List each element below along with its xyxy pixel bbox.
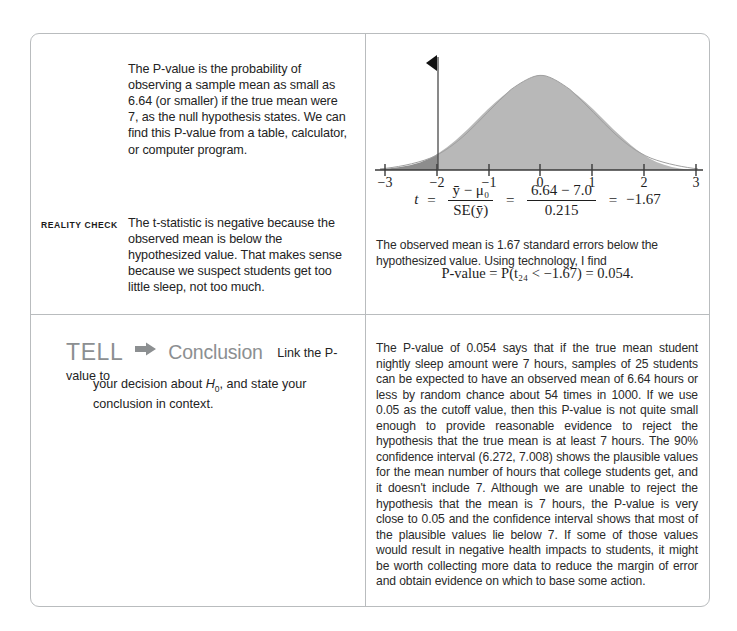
tell-work-column: The P-value of 0.054 says that if the tr… xyxy=(366,315,709,607)
show-narration-column: The P-value is the probability of observ… xyxy=(31,34,365,314)
formula-equals-2: = xyxy=(506,192,514,208)
t-distribution-chart: −3 −2 −1 0 1 2 3 xyxy=(370,42,708,187)
left-triangle-marker-icon xyxy=(426,55,437,71)
tell-lead-in-text: your decision about H0, and state your c… xyxy=(93,376,333,413)
formula-result: −1.67 xyxy=(626,191,661,207)
reality-check-narration-text: The t-statistic is negative because the … xyxy=(128,215,350,296)
formula-denominator-1: SE(ȳ) xyxy=(448,201,493,219)
formula-denominator-2: 0.215 xyxy=(527,201,596,219)
tell-step-label: TELL xyxy=(66,339,123,365)
right-arrow-icon xyxy=(135,342,157,360)
tell-narration-column: TELL Conclusion Link the P-value to your… xyxy=(31,315,365,607)
tell-heading: Conclusion xyxy=(168,341,262,363)
show-section: The P-value is the probability of observ… xyxy=(31,34,709,314)
formula-equals-1: = xyxy=(427,192,435,208)
worked-example-panel: The P-value is the probability of observ… xyxy=(30,33,710,607)
reality-check-label: REALITY CHECK xyxy=(41,220,118,230)
pvalue-narration-text: The P-value is the probability of observ… xyxy=(128,61,350,158)
t-distribution-svg: −3 −2 −1 0 1 2 3 xyxy=(370,42,708,187)
formula-numerator-1: ȳ − μ₀ xyxy=(448,182,493,201)
formula-t-symbol: t xyxy=(414,191,418,207)
formula-equals-3: = xyxy=(609,192,617,208)
show-work-column: −3 −2 −1 0 1 2 3 t = xyxy=(366,34,709,314)
pvalue-equation: P-value = P(t₂₄ < −1.67) = 0.054. xyxy=(366,265,709,282)
formula-numerator-2: 6.64 − 7.0 xyxy=(527,182,596,201)
conclusion-paragraph: The P-value of 0.054 says that if the tr… xyxy=(376,341,698,590)
formula-fraction-1: ȳ − μ₀ SE(ȳ) xyxy=(448,182,493,219)
tell-section: TELL Conclusion Link the P-value to your… xyxy=(31,315,709,607)
t-statistic-formula: t = ȳ − μ₀ SE(ȳ) = 6.64 − 7.0 0.215 = … xyxy=(366,182,709,219)
formula-fraction-2: 6.64 − 7.0 0.215 xyxy=(527,182,596,219)
